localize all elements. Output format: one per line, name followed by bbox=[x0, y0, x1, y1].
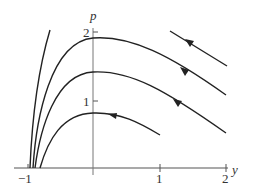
x-axis-label: y bbox=[230, 162, 238, 177]
arrow-icon bbox=[108, 113, 117, 119]
y-axis-label: p bbox=[89, 8, 97, 23]
arrow-icon bbox=[185, 39, 194, 47]
trajectory-top-segment bbox=[170, 31, 227, 66]
x-tick-label-neg1: −1 bbox=[18, 171, 32, 186]
arrowheads bbox=[108, 39, 194, 119]
trajectory-peak-0-8 bbox=[40, 113, 160, 168]
x-tick-label-2: 2 bbox=[222, 171, 229, 186]
trajectories bbox=[30, 30, 227, 168]
phase-portrait-diagram: −1 1 2 1 2 y p bbox=[0, 0, 255, 190]
arrow-icon bbox=[180, 67, 189, 76]
arrow-icon bbox=[173, 99, 182, 107]
y-tick-label-1: 1 bbox=[83, 94, 90, 109]
trajectory-peak-2 bbox=[33, 38, 226, 168]
y-tick-label-2: 2 bbox=[83, 25, 90, 40]
x-tick-label-1: 1 bbox=[156, 171, 163, 186]
